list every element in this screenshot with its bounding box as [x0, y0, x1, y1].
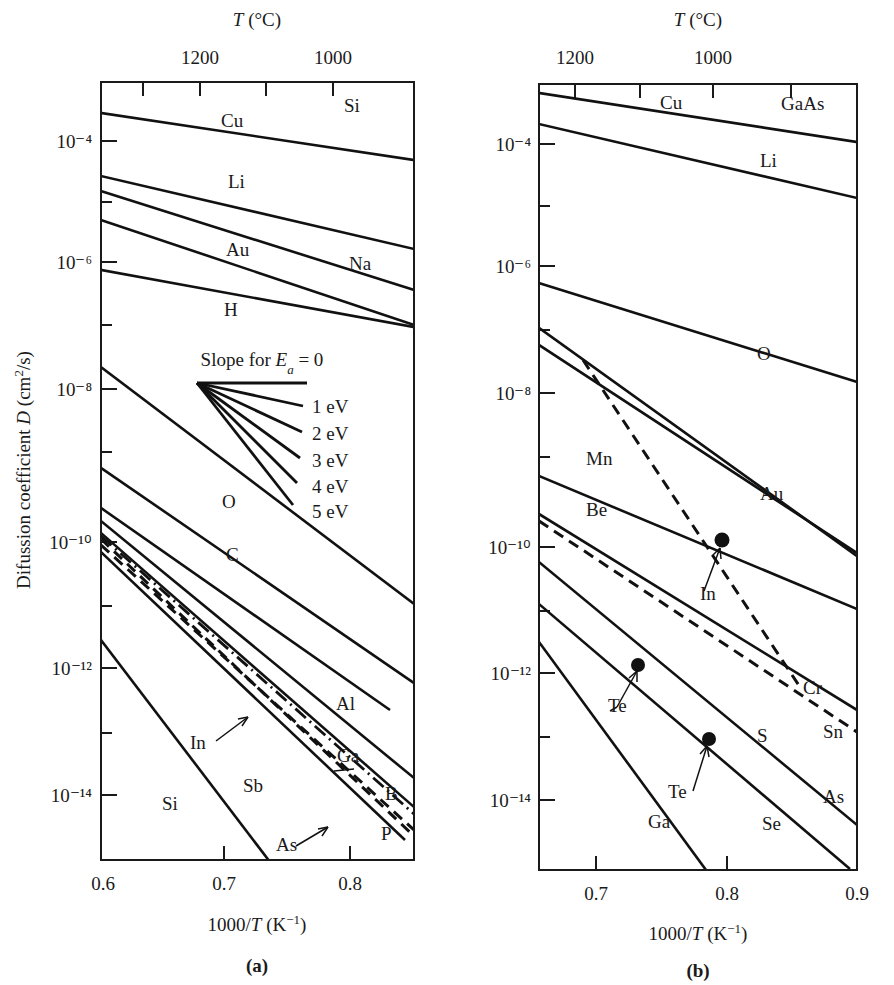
panel-a-ytick-1: 10⁻⁴ [56, 131, 92, 152]
label-in-b: In [700, 583, 716, 604]
panel-b-plot-frame [539, 84, 857, 870]
label-as-a: As [276, 834, 297, 855]
panel-b-top-ticks [575, 84, 791, 98]
marker-te-1 [631, 658, 645, 672]
curve-al-si [101, 508, 390, 710]
curve-si-si [101, 640, 270, 862]
label-cr-b: Cr [803, 677, 823, 698]
panel-a-top-tick-1200: 1200 [181, 47, 219, 68]
label-be-b: Be [586, 499, 607, 520]
panel-b-ytick-2: 10⁻⁶ [495, 256, 531, 277]
label-h-a: H [224, 299, 238, 320]
label-b-a: B [385, 783, 398, 804]
slope-legend-5ev: 5 eV [312, 501, 349, 522]
panel-b-label: (b) [686, 960, 709, 982]
slope-legend-3ev: 3 eV [312, 450, 349, 471]
diffusion-coefficient-figure: T (°C) 1200 1000 [0, 0, 894, 985]
label-mn-b: Mn [586, 448, 613, 469]
label-se-b: Se [762, 813, 781, 834]
curve-au-si [101, 191, 414, 290]
panel-a-label: (a) [246, 955, 268, 977]
label-cu-b: Cu [660, 92, 683, 113]
panel-b: T (°C) 1200 1000 10⁻ [488, 9, 869, 982]
label-p-a: P [381, 823, 392, 844]
panel-b-top-axis-title: T (°C) [674, 9, 722, 31]
panel-a-plot-frame [101, 82, 414, 860]
marker-in [715, 533, 730, 548]
curve-cu-si [101, 113, 414, 160]
curve-in-si [101, 536, 414, 814]
panel-a-xtick-0p6: 0.6 [91, 873, 115, 894]
panel-b-markers [631, 533, 730, 747]
label-in-a: In [190, 732, 206, 753]
curve-au-gaas [539, 328, 857, 556]
curve-h-si [101, 270, 414, 327]
label-s-b: S [757, 725, 768, 746]
label-te-b-2: Te [668, 781, 687, 802]
curve-as-si [101, 552, 405, 840]
panel-b-ytick-3: 10⁻⁸ [495, 383, 531, 404]
curve-o-si [101, 367, 414, 604]
panel-a-xtick-0p7: 0.7 [212, 873, 236, 894]
label-ga-b: Ga [648, 811, 671, 832]
panel-b-curves [539, 93, 857, 870]
panel-b-ytick-1: 10⁻⁴ [495, 134, 531, 155]
label-host-si-a: Si [344, 95, 360, 116]
panel-b-ytick-5: 10⁻¹² [491, 663, 532, 684]
panel-a-y-major-ticks [101, 141, 117, 795]
curve-s-gaas [539, 521, 857, 732]
slope-legend-1ev: 1 eV [312, 396, 349, 417]
panel-a-top-tick-1000: 1000 [314, 47, 352, 68]
panel-a-ytick-6: 10⁻¹⁴ [51, 785, 93, 806]
label-as-b: As [823, 786, 844, 807]
label-sn-b: Sn [823, 721, 844, 742]
panel-a-xtick-0p8: 0.8 [338, 873, 362, 894]
panel-a-bottom-axis-title: 1000/T (K−1) [208, 912, 307, 937]
label-li-b: Li [760, 150, 777, 171]
panel-b-xtick-0p9: 0.9 [845, 883, 869, 904]
figure-root: T (°C) 1200 1000 [0, 0, 894, 985]
panel-a-ytick-5: 10⁻¹² [52, 658, 93, 679]
label-te-b-1: Te [608, 695, 627, 716]
panel-b-top-tick-1200: 1200 [556, 47, 594, 68]
label-li-a: Li [228, 171, 245, 192]
panel-b-y-major-ticks [539, 144, 555, 800]
panel-a-ytick-3: 10⁻⁸ [56, 379, 92, 400]
label-o-a: O [222, 491, 236, 512]
slope-legend-title: Slope for Ea = 0 [201, 349, 324, 377]
marker-te-2 [702, 732, 716, 746]
label-cu-a: Cu [221, 110, 244, 131]
label-o-b: O [757, 343, 771, 364]
panel-b-xtick-0p7: 0.7 [584, 883, 608, 904]
label-au-a: Au [226, 239, 250, 260]
panel-b-xtick-0p8: 0.8 [715, 883, 739, 904]
panel-a: T (°C) 1200 1000 [11, 9, 415, 977]
panel-b-ytick-4: 10⁻¹⁰ [488, 537, 531, 558]
panel-a-top-axis-title: T (°C) [233, 9, 281, 31]
label-si-curve-a: Si [162, 793, 178, 814]
label-au-b: Au [760, 483, 784, 504]
label-host-gaas-b: GaAs [781, 93, 824, 114]
panel-a-y-axis-title: Difussion coefficient D (cm2/s) [11, 351, 36, 589]
curve-li-si [101, 176, 414, 249]
slope-legend-rays [197, 383, 307, 505]
panel-a-curves [101, 113, 414, 862]
panel-a-ytick-2: 10⁻⁶ [56, 252, 92, 273]
panel-b-ytick-6: 10⁻¹⁴ [490, 790, 532, 811]
panel-b-bottom-axis-title: 1000/T (K−1) [649, 921, 748, 946]
label-sb-a: Sb [243, 775, 263, 796]
slope-legend-4ev: 4 eV [312, 476, 349, 497]
slope-legend-2ev: 2 eV [312, 423, 349, 444]
panel-b-bottom-ticks [596, 856, 727, 870]
curve-cr-gaas [583, 360, 800, 687]
label-ga-a: Ga [337, 745, 360, 766]
panel-b-top-tick-1000: 1000 [694, 47, 732, 68]
label-c-a: C [226, 544, 239, 565]
label-na-a: Na [349, 253, 372, 274]
label-al-a: Al [336, 693, 355, 714]
panel-a-ytick-4: 10⁻¹⁰ [49, 532, 92, 553]
curve-se-gaas [539, 604, 850, 869]
panel-a-top-ticks [143, 82, 333, 96]
